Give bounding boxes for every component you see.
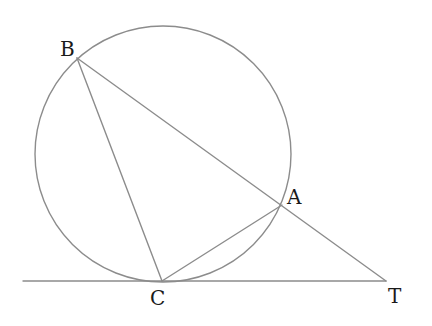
chord-BC bbox=[77, 58, 162, 281]
point-label-B: B bbox=[60, 37, 75, 61]
secant-line-BT bbox=[77, 58, 386, 281]
point-label-T: T bbox=[388, 284, 402, 308]
circle bbox=[35, 26, 291, 282]
point-label-C: C bbox=[150, 286, 165, 310]
chord-CA bbox=[162, 205, 282, 281]
point-label-A: A bbox=[286, 185, 302, 209]
geometry-diagram: B A C T bbox=[0, 0, 432, 326]
diagram-svg: B A C T bbox=[0, 0, 432, 326]
